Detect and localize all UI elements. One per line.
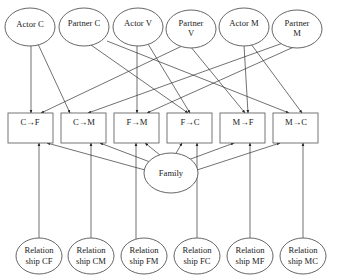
edge-family-to-f-m xyxy=(145,143,160,155)
node-relationship-cf: Relation ship CF xyxy=(16,238,62,274)
node-label: ship FC xyxy=(184,256,211,266)
node-relationship-mf: Relation ship MF xyxy=(227,238,273,274)
node-label: Partner xyxy=(179,18,204,28)
box-label: F→C xyxy=(180,117,199,127)
box-label: F→M xyxy=(126,117,147,127)
node-partner-m: Partner M xyxy=(272,10,322,48)
box-f-to-c: F→C xyxy=(167,113,212,143)
relationship-nodes: Relation ship CF Relation ship CM Relati… xyxy=(16,238,326,274)
actor-partner-nodes: Actor C Partner C Actor V Partner V Acto… xyxy=(5,8,322,48)
edge-family-to-m-f xyxy=(188,143,234,160)
edge-actor-m-to-m-c xyxy=(251,44,302,113)
node-actor-m: Actor M xyxy=(219,8,269,46)
node-label: Relation xyxy=(24,245,54,255)
box-m-to-f: M→F xyxy=(220,113,265,143)
edge-family-to-c-m xyxy=(100,143,150,162)
node-relationship-cm: Relation ship CM xyxy=(68,238,114,274)
node-label: Partner C xyxy=(68,18,101,28)
node-label: ship FM xyxy=(130,256,159,266)
node-label: Partner xyxy=(285,18,310,28)
node-label: Actor M xyxy=(229,18,259,28)
node-relationship-fc: Relation ship FC xyxy=(174,238,220,274)
node-family: Family xyxy=(144,153,198,193)
node-label: Relation xyxy=(288,245,318,255)
node-label: ship MF xyxy=(236,256,265,266)
box-label: C→F xyxy=(20,117,39,127)
box-label: M→C xyxy=(285,117,307,127)
box-label: M→F xyxy=(232,117,253,127)
dyad-boxes: C→F C→M F→M F→C M→F M→C xyxy=(8,113,318,143)
node-partner-v: Partner V xyxy=(166,10,216,48)
node-label: ship MC xyxy=(288,256,318,266)
edge-actor-c-to-c-m xyxy=(38,44,70,113)
edges-top xyxy=(31,41,302,113)
node-label: ship CM xyxy=(76,256,106,266)
node-label: ship CF xyxy=(26,256,53,266)
node-partner-c: Partner C xyxy=(59,8,109,46)
box-label: C→M xyxy=(73,117,95,127)
edge-partner-v-to-m-f xyxy=(190,46,245,113)
node-label: V xyxy=(188,28,195,38)
edge-partner-v-to-c-f xyxy=(41,46,182,113)
edge-actor-m-to-m-f xyxy=(244,45,248,113)
edge-family-to-c-f xyxy=(47,143,145,170)
node-label: Actor C xyxy=(16,19,44,29)
path-diagram: Actor C Partner C Actor V Partner V Acto… xyxy=(0,0,337,280)
node-relationship-mc: Relation ship MC xyxy=(280,238,326,274)
node-actor-v: Actor V xyxy=(113,8,163,46)
node-relationship-fm: Relation ship FM xyxy=(121,238,167,274)
node-label: Family xyxy=(159,168,184,178)
node-label: M xyxy=(293,28,301,38)
box-f-to-m: F→M xyxy=(114,113,159,143)
edge-partner-c-to-m-c xyxy=(107,41,289,113)
node-label: Relation xyxy=(76,245,106,255)
node-actor-c: Actor C xyxy=(5,8,55,46)
node-label: Relation xyxy=(182,245,212,255)
edge-partner-m-to-c-m xyxy=(88,43,283,113)
node-label: Relation xyxy=(235,245,265,255)
box-c-to-f: C→F xyxy=(8,113,53,143)
node-label: Actor V xyxy=(124,18,153,28)
edge-family-to-m-c xyxy=(197,143,280,170)
box-c-to-m: C→M xyxy=(61,113,106,143)
node-label: Relation xyxy=(129,245,159,255)
box-m-to-c: M→C xyxy=(273,113,318,143)
edge-partner-c-to-f-c xyxy=(91,45,188,113)
